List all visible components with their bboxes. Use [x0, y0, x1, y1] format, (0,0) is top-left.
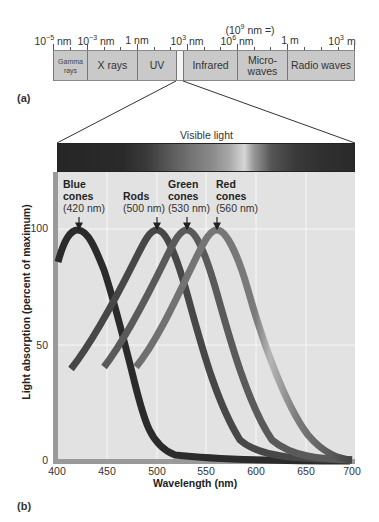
xtick-600: 600	[247, 465, 265, 477]
xtick-400: 400	[48, 465, 66, 477]
annotation-blue-cones: Bluecones(420 nm)	[63, 178, 105, 214]
absorption-chart	[0, 0, 379, 522]
ytick-0: 0	[24, 454, 48, 466]
annotation-rods: Rods(500 nm)	[123, 190, 165, 214]
xtick-550: 550	[197, 465, 215, 477]
annotation-red-cones: Redcones(560 nm)	[216, 178, 258, 214]
y-axis	[53, 172, 58, 464]
xtick-500: 500	[148, 465, 166, 477]
xtick-450: 450	[98, 465, 116, 477]
y-axis-title: Light absorption (percent of maximum)	[20, 204, 32, 399]
x-axis-title: Wavelength (nm)	[153, 477, 237, 489]
panel-b-label: (b)	[17, 500, 31, 512]
annotation-green-cones: Greencones(530 nm)	[168, 178, 210, 214]
xtick-650: 650	[297, 465, 315, 477]
xtick-700: 700	[343, 465, 361, 477]
